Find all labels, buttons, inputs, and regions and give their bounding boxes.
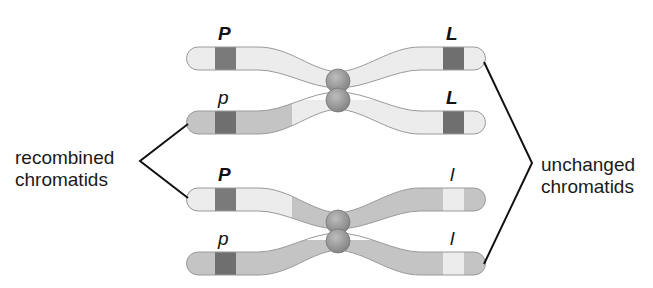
allele-label-p-4: p — [217, 228, 229, 249]
allele-label-P-1: P — [218, 23, 231, 44]
recombined-bracket — [140, 124, 188, 198]
centromere-bottom — [326, 210, 350, 253]
allele-label-P-3: P — [218, 164, 231, 185]
allele-label-l-4: l — [450, 228, 455, 249]
unchanged-bracket — [484, 62, 532, 264]
recombined-label-line1: recombined — [15, 147, 114, 168]
centromere-top — [326, 69, 350, 112]
recombined-label-line2: chromatids — [15, 169, 108, 190]
gene-band-L — [443, 40, 464, 80]
crossing-over-diagram: P L p L P l p l recombined chromatids un… — [0, 0, 653, 288]
unchanged-label-line2: chromatids — [541, 176, 634, 197]
gene-band-l — [443, 180, 464, 220]
allele-label-L-1: L — [446, 23, 458, 44]
allele-label-l-3: l — [450, 164, 455, 185]
gene-band-P — [215, 40, 236, 80]
allele-label-L-2: L — [446, 87, 458, 108]
gene-band-P — [215, 180, 236, 220]
allele-label-p-2: p — [217, 87, 229, 108]
unchanged-label-line1: unchanged — [541, 154, 635, 175]
